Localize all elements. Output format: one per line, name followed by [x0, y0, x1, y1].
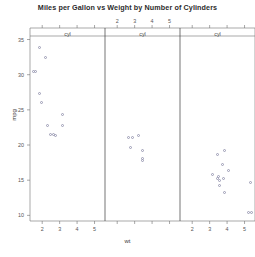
data-point	[40, 101, 43, 104]
chart-axes	[0, 0, 255, 257]
data-point	[249, 181, 252, 184]
data-point	[227, 169, 230, 172]
data-point	[129, 146, 132, 149]
top-tick-label: 3	[130, 18, 140, 24]
x-tick-label: 2	[187, 226, 197, 232]
panel-strip-label-1: cyl	[30, 31, 105, 37]
panel-strip-label-2: cyl	[105, 31, 180, 37]
top-tick-label: 4	[147, 18, 157, 24]
x-tick-label: 2	[37, 226, 47, 232]
x-tick-label: 4	[72, 226, 82, 232]
data-point	[141, 157, 144, 160]
data-point	[223, 191, 226, 194]
panel-strip-label-3: cyl	[180, 31, 255, 37]
y-tick-label: 15	[10, 177, 24, 183]
data-point	[141, 149, 144, 152]
y-tick-label: 20	[10, 142, 24, 148]
top-tick-label: 2	[112, 18, 122, 24]
data-point	[218, 184, 221, 187]
data-point	[216, 153, 219, 156]
data-point	[52, 133, 55, 136]
data-point	[221, 163, 224, 166]
data-point	[137, 134, 140, 137]
x-tick-label: 3	[55, 226, 65, 232]
x-tick-label: 3	[205, 226, 215, 232]
data-point	[38, 46, 41, 49]
x-tick-label: 4	[222, 226, 232, 232]
top-tick-label: 5	[165, 18, 175, 24]
data-point	[61, 124, 64, 127]
y-tick-label: 10	[10, 212, 24, 218]
chart-container: Miles per Gallon vs Weight by Number of …	[0, 0, 255, 257]
x-tick-label: 5	[90, 226, 100, 232]
y-tick-label: 30	[10, 72, 24, 78]
y-tick-label: 25	[10, 107, 24, 113]
x-tick-label: 5	[240, 226, 250, 232]
data-point	[218, 179, 221, 182]
y-tick-label: 35	[10, 37, 24, 43]
